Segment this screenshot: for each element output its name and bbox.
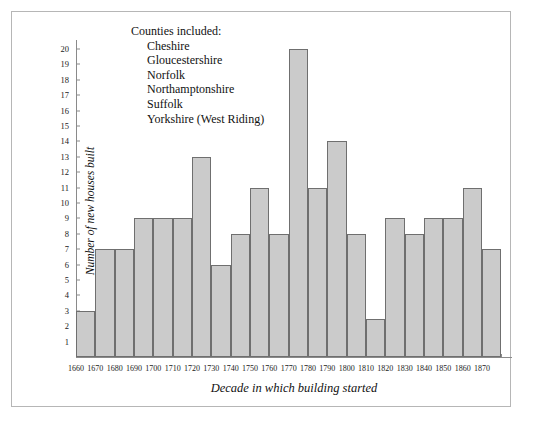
bar <box>347 234 366 357</box>
x-tick-label: 1730 <box>203 365 219 373</box>
bar <box>366 319 385 358</box>
annotation-item: Gloucestershire <box>147 53 264 68</box>
bar <box>482 249 501 357</box>
y-tick-label: 20 <box>61 45 77 54</box>
y-tick-label: 17 <box>61 91 77 100</box>
annotation-item: Yorkshire (West Riding) <box>147 112 264 127</box>
bar <box>308 188 327 357</box>
annotation-item: Cheshire <box>147 39 264 54</box>
y-tick-mark <box>76 156 80 157</box>
bar <box>424 218 443 357</box>
x-tick-label: 1750 <box>242 365 258 373</box>
x-tick-label: 1670 <box>87 365 103 373</box>
x-axis-title: Decade in which building started <box>76 381 512 396</box>
bar <box>211 265 230 357</box>
y-tick-label: 15 <box>61 122 77 131</box>
x-tick-label: 1680 <box>107 365 123 373</box>
y-tick-mark <box>76 249 80 250</box>
y-tick-mark <box>76 49 80 50</box>
x-tick-label: 1850 <box>435 365 451 373</box>
chart-figure: Number of new houses built 1234567891011… <box>0 0 535 422</box>
bar <box>269 234 288 357</box>
y-tick-mark <box>76 172 80 173</box>
bar <box>115 249 134 357</box>
y-tick-label: 14 <box>61 137 77 146</box>
x-tick-label: 1860 <box>455 365 471 373</box>
bar <box>192 157 211 357</box>
bar <box>95 249 114 357</box>
y-tick-mark <box>76 218 80 219</box>
x-tick-label: 1780 <box>300 365 316 373</box>
y-tick-mark <box>76 203 80 204</box>
counties-annotation: Counties included: CheshireGloucestershi… <box>131 24 264 126</box>
x-tick-label: 1700 <box>145 365 161 373</box>
y-tick-label: 19 <box>61 60 77 69</box>
x-tick-label: 1740 <box>223 365 239 373</box>
bar <box>463 188 482 357</box>
y-tick-mark <box>76 280 80 281</box>
y-tick-mark <box>76 233 80 234</box>
annotation-item: Northamptonshire <box>147 82 264 97</box>
x-tick-mark <box>501 354 502 358</box>
y-tick-label: 2 <box>65 322 76 331</box>
y-tick-label: 7 <box>65 245 76 254</box>
y-tick-label: 11 <box>61 183 76 192</box>
y-tick-label: 4 <box>65 291 76 300</box>
y-tick-label: 3 <box>65 307 76 316</box>
bar <box>153 218 172 357</box>
annotation-item: Suffolk <box>147 97 264 112</box>
bar <box>76 311 95 357</box>
x-tick-label: 1870 <box>474 365 490 373</box>
x-tick-label: 1710 <box>165 365 181 373</box>
annotation-item: Norfolk <box>147 68 264 83</box>
x-tick-label: 1790 <box>319 365 335 373</box>
bar <box>231 234 250 357</box>
y-tick-label: 12 <box>61 168 77 177</box>
y-tick-mark <box>76 264 80 265</box>
y-tick-label: 18 <box>61 76 77 85</box>
y-tick-label: 13 <box>61 153 77 162</box>
y-tick-label: 8 <box>65 230 76 239</box>
y-tick-mark <box>76 110 80 111</box>
x-tick-label: 1810 <box>358 365 374 373</box>
y-tick-mark <box>76 187 80 188</box>
y-tick-mark <box>76 95 80 96</box>
bar <box>443 218 462 357</box>
bar <box>385 218 404 357</box>
x-tick-label: 1760 <box>261 365 277 373</box>
x-tick-label: 1660 <box>68 365 84 373</box>
y-tick-mark <box>76 64 80 65</box>
x-tick-label: 1770 <box>281 365 297 373</box>
x-tick-label: 1820 <box>377 365 393 373</box>
bar <box>405 234 424 357</box>
y-tick-label: 10 <box>61 199 77 208</box>
y-tick-label: 16 <box>61 106 77 115</box>
bar <box>289 49 308 357</box>
x-tick-label: 1840 <box>416 365 432 373</box>
x-axis-line <box>76 357 512 358</box>
x-tick-label: 1720 <box>184 365 200 373</box>
x-tick-label: 1690 <box>126 365 142 373</box>
bar <box>134 218 153 357</box>
annotation-title: Counties included: <box>131 24 264 39</box>
x-tick-label: 1830 <box>397 365 413 373</box>
bar <box>327 141 346 357</box>
y-tick-label: 5 <box>65 276 76 285</box>
y-tick-label: 9 <box>65 214 76 223</box>
y-tick-label: 6 <box>65 260 76 269</box>
y-tick-label: 1 <box>65 337 76 346</box>
y-tick-mark <box>76 79 80 80</box>
y-tick-mark <box>76 295 80 296</box>
x-tick-label: 1800 <box>339 365 355 373</box>
bar <box>250 188 269 357</box>
annotation-items: CheshireGloucestershireNorfolkNorthampto… <box>131 39 264 127</box>
y-tick-mark <box>76 141 80 142</box>
bar <box>173 218 192 357</box>
y-tick-mark <box>76 126 80 127</box>
